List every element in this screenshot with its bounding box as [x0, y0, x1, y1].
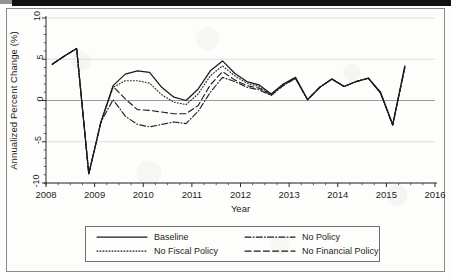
y-tick-label: 5	[37, 52, 42, 62]
scan-top-bar-artifact	[12, 0, 451, 6]
y-tick-label: -5	[34, 135, 42, 145]
y-tick-label: -10	[29, 176, 42, 186]
y-tick-label: 10	[32, 11, 42, 21]
x-tick-label: 2014	[327, 189, 348, 200]
legend-label: No Policy	[302, 232, 340, 242]
x-tick-label: 2008	[35, 189, 56, 200]
x-tick-label: 2013	[279, 189, 300, 200]
plot-area: Annualized Percent Change (%) 1050-5-10 …	[46, 18, 435, 183]
legend-item: No Financial Policy	[244, 246, 379, 256]
y-axis-title: Annualized Percent Change (%)	[8, 18, 22, 183]
x-tick-label: 2016	[424, 189, 445, 200]
legend-label: No Financial Policy	[302, 246, 379, 256]
legend-item: Baseline	[96, 232, 189, 242]
x-axis-title: Year	[46, 203, 435, 214]
legend-label: No Fiscal Policy	[154, 246, 218, 256]
chart-page: Annualized Percent Change (%) 1050-5-10 …	[0, 0, 451, 279]
legend-line-sample	[96, 246, 148, 256]
legend-item: No Policy	[244, 232, 340, 242]
chart-canvas	[46, 18, 435, 183]
x-tick-label: 2012	[230, 189, 251, 200]
legend-label: Baseline	[154, 232, 189, 242]
legend-line-sample	[244, 232, 296, 242]
y-tick-label: 0	[37, 94, 42, 104]
x-tick-label: 2009	[84, 189, 105, 200]
legend-item: No Fiscal Policy	[96, 246, 218, 256]
legend-line-sample	[96, 232, 148, 242]
x-tick-label: 2015	[376, 189, 397, 200]
x-tick-label: 2011	[182, 189, 202, 200]
x-tick-label: 2010	[133, 189, 154, 200]
legend-line-sample	[244, 246, 296, 256]
chart-legend: BaselineNo PolicyNo Fiscal PolicyNo Fina…	[85, 226, 380, 262]
